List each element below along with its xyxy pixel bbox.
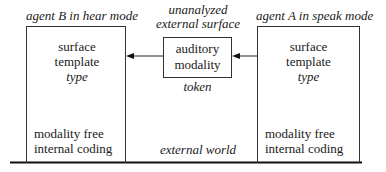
agent-b-surface-line2: template xyxy=(27,55,127,69)
agent-b-title: agent B in hear mode xyxy=(26,9,138,23)
agent-a-coding-line1: modality free xyxy=(265,127,335,141)
agent-b-coding-line1: modality free xyxy=(34,127,104,141)
arrowhead-left-icon xyxy=(232,53,240,59)
agent-b-surface-line1: surface xyxy=(27,40,127,54)
agent-a-surface-line1: surface xyxy=(258,40,359,54)
auditory-modality-box: auditory modality xyxy=(163,37,232,78)
agent-a-type-label: type xyxy=(258,70,359,84)
auditory-modality-line1: auditory xyxy=(164,42,231,56)
agent-b-coding-line2: internal coding xyxy=(34,142,112,156)
agent-a-box: surface template type modality free inte… xyxy=(257,26,360,163)
token-label: token xyxy=(163,80,232,94)
external-world-label: external world xyxy=(148,143,248,157)
agent-a-coding-line2: internal coding xyxy=(265,142,343,156)
middle-title-line2: external surface xyxy=(148,17,248,31)
agent-a-title: agent A in speak mode xyxy=(256,9,373,23)
agent-a-surface-line2: template xyxy=(258,55,359,69)
auditory-modality-line2: modality xyxy=(164,58,231,72)
middle-title-line1: unanalyzed xyxy=(148,3,248,17)
arrowhead-left-icon xyxy=(126,53,134,59)
agent-b-type-label: type xyxy=(27,70,127,84)
agent-b-box: surface template type modality free inte… xyxy=(26,26,126,163)
